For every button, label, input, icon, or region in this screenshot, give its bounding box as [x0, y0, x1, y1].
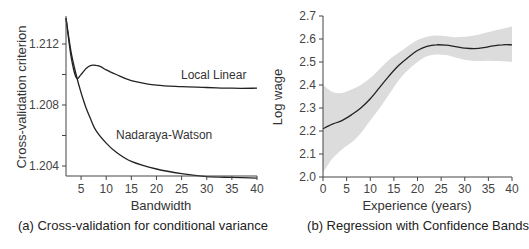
x-tick-label: 35 — [225, 182, 239, 196]
y-tick-label: 1.208 — [29, 98, 59, 112]
series-nadaraya-watson — [66, 18, 257, 178]
y-tick-label: 2.1 — [299, 147, 316, 161]
x-tick-label: 25 — [434, 182, 448, 196]
y-tick-label: 2.6 — [299, 32, 316, 46]
annotation-nadaraya-watson: Nadaraya-Watson — [116, 128, 212, 142]
x-tick-label: 15 — [387, 182, 401, 196]
x-tick-label: 0 — [320, 182, 327, 196]
annotation-local-linear: Local Linear — [181, 68, 246, 82]
x-tick-label: 25 — [175, 182, 189, 196]
panel-b-x-ticks: 0510152025303540 — [320, 177, 519, 196]
x-tick-label: 15 — [125, 182, 139, 196]
x-tick-label: 10 — [364, 182, 378, 196]
panel-b-x-label: Experience (years) — [362, 198, 471, 213]
x-tick-label: 20 — [411, 182, 425, 196]
y-tick-label: 2.7 — [299, 9, 316, 23]
panel-a-y-ticks: 1.2041.2081.212 — [29, 37, 66, 173]
x-tick-label: 40 — [505, 182, 519, 196]
y-tick-label: 1.212 — [29, 37, 59, 51]
panel-b-y-ticks: 2.02.12.22.32.42.52.62.7 — [299, 9, 323, 184]
y-tick-label: 2.4 — [299, 78, 316, 92]
panel-b-y-label: Log wage — [270, 69, 285, 125]
panel-a-y-label: Cross-validation criterion — [14, 25, 29, 168]
panel-b-caption: (b) Regression with Confidence Bands — [307, 218, 529, 233]
panel-a-cross-validation: 510152025303540 1.2041.2081.212 Local Li… — [14, 16, 268, 233]
panel-a-x-label: Bandwidth — [131, 198, 192, 213]
x-tick-label: 30 — [458, 182, 472, 196]
x-tick-label: 5 — [343, 182, 350, 196]
y-tick-label: 1.204 — [29, 159, 59, 173]
x-tick-label: 20 — [150, 182, 164, 196]
panel-b-regression: 0510152025303540 2.02.12.22.32.42.52.62.… — [270, 9, 529, 233]
panel-a-x-ticks: 510152025303540 — [78, 176, 264, 196]
panel-a-caption: (a) Cross-validation for conditional var… — [18, 218, 268, 233]
x-tick-label: 40 — [250, 182, 264, 196]
x-tick-label: 10 — [100, 182, 114, 196]
y-tick-label: 2.0 — [299, 170, 316, 184]
panel-a-curves — [66, 18, 257, 178]
y-tick-label: 2.3 — [299, 101, 316, 115]
x-tick-label: 5 — [78, 182, 85, 196]
y-tick-label: 2.2 — [299, 124, 316, 138]
x-tick-label: 35 — [482, 182, 496, 196]
x-tick-label: 30 — [200, 182, 214, 196]
y-tick-label: 2.5 — [299, 55, 316, 69]
figure: 510152025303540 1.2041.2081.212 Local Li… — [0, 0, 529, 249]
